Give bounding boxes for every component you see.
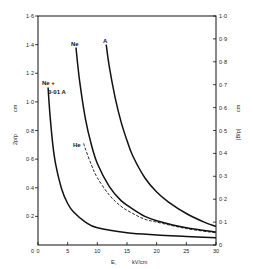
right-y-tick-label: 0·6 <box>219 105 227 111</box>
right-y-tick-label: 0·9 <box>219 36 227 42</box>
label-ne: Ne <box>71 41 79 47</box>
label-ne-plus: Ne + <box>42 80 55 86</box>
x-tick-label: 0 <box>36 248 39 254</box>
left-y-tick-label: 0·4 <box>26 185 34 191</box>
x-tick-label: 15 <box>124 248 130 254</box>
x-axis-label-e: E, <box>111 259 117 265</box>
left-axis-unit: cm <box>12 104 18 112</box>
left-y-tick-label: 0·2 <box>26 213 34 219</box>
x-axis-label-unit: kV/cm <box>132 259 148 265</box>
chart: 05101520253000·20·40·60·81·01·21·41·600·… <box>0 0 253 269</box>
plot-frame <box>38 16 216 245</box>
curve-he <box>84 143 216 232</box>
right-y-tick-label: 0·2 <box>219 196 227 202</box>
axis-ticks: 05101520253000·20·40·60·81·01·21·41·600·… <box>26 13 227 254</box>
label-he: He <box>73 142 81 148</box>
left-y-tick-label: 1·2 <box>26 70 34 76</box>
right-y-tick-label: 0·1 <box>219 219 227 225</box>
right-y-tick-label: 0·7 <box>219 82 227 88</box>
left-y-tick-label: 1·4 <box>26 42 34 48</box>
right-axis-fraction: |B/p| <box>235 129 241 140</box>
right-axis-unit: cm <box>235 104 241 112</box>
right-y-tick-label: 0·5 <box>219 128 227 134</box>
left-origin-label: 0 <box>31 248 34 254</box>
right-y-tick-label: 0·8 <box>219 59 227 65</box>
right-y-tick-label: 1·0 <box>219 13 227 19</box>
curve-a <box>106 45 216 227</box>
left-y-tick-label: 0·8 <box>26 128 34 134</box>
x-tick-label: 20 <box>154 248 160 254</box>
left-y-tick-label: 0·6 <box>26 156 34 162</box>
right-y-tick-label: 0 <box>219 242 222 248</box>
right-y-tick-label: 0·3 <box>219 173 227 179</box>
x-tick-label: 25 <box>183 248 189 254</box>
x-tick-label: 5 <box>66 248 69 254</box>
left-axis-fraction: 2p/p <box>12 134 18 145</box>
label-ne-plus-sub: 0·01 A <box>48 89 66 95</box>
left-y-tick-label: 1·0 <box>26 99 34 105</box>
left-y-tick-label: 1·6 <box>26 13 34 19</box>
label-a: A <box>103 38 108 44</box>
x-tick-label: 10 <box>94 248 100 254</box>
x-tick-label: 30 <box>213 248 219 254</box>
right-y-tick-label: 0·4 <box>219 150 227 156</box>
curve-ne <box>76 47 216 232</box>
